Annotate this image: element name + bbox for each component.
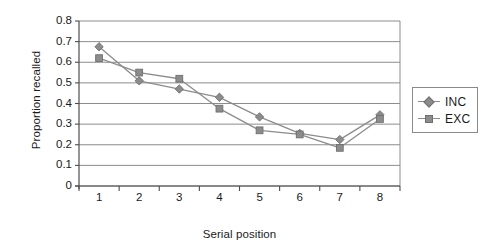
marker-square bbox=[336, 144, 343, 151]
data-point-inc-5 bbox=[255, 113, 263, 121]
data-point-exc-1 bbox=[96, 55, 103, 62]
legend-square-icon bbox=[425, 115, 433, 123]
x-tick-label: 2 bbox=[127, 192, 151, 204]
marker-diamond bbox=[336, 135, 344, 143]
x-tick-label: 7 bbox=[328, 192, 352, 204]
chart-figure: Proportion recalled 0.80.70.60.50.40.30.… bbox=[0, 0, 487, 252]
data-point-inc-4 bbox=[215, 93, 223, 101]
x-tick-label: 6 bbox=[288, 192, 312, 204]
marker-square bbox=[136, 69, 143, 76]
marker-square bbox=[176, 75, 183, 82]
data-point-inc-7 bbox=[336, 135, 344, 143]
marker-diamond bbox=[215, 93, 223, 101]
legend-marker-square-icon bbox=[418, 113, 440, 125]
x-tick-label: 3 bbox=[167, 192, 191, 204]
data-point-exc-5 bbox=[256, 127, 263, 134]
data-point-exc-4 bbox=[216, 105, 223, 112]
chart-legend: INCEXC bbox=[412, 87, 478, 133]
data-point-exc-3 bbox=[176, 75, 183, 82]
data-point-exc-2 bbox=[136, 69, 143, 76]
marker-square bbox=[296, 131, 303, 138]
legend-item-exc[interactable]: EXC bbox=[418, 110, 470, 127]
x-tick-label: 1 bbox=[87, 192, 111, 204]
legend-diamond-icon bbox=[423, 96, 434, 107]
marker-diamond bbox=[175, 85, 183, 93]
x-axis-tick-labels: 12345678 bbox=[79, 192, 400, 212]
marker-square bbox=[96, 55, 103, 62]
data-point-exc-7 bbox=[336, 144, 343, 151]
data-point-inc-3 bbox=[175, 85, 183, 93]
data-point-exc-6 bbox=[296, 131, 303, 138]
legend-label: INC bbox=[445, 95, 466, 109]
x-tick-label: 5 bbox=[248, 192, 272, 204]
x-axis-title: Serial position bbox=[79, 228, 400, 240]
marker-square bbox=[377, 116, 384, 123]
marker-square bbox=[216, 105, 223, 112]
x-tick-label: 8 bbox=[368, 192, 392, 204]
legend-item-inc[interactable]: INC bbox=[418, 93, 470, 110]
data-point-exc-8 bbox=[377, 116, 384, 123]
marker-square bbox=[256, 127, 263, 134]
legend-label: EXC bbox=[445, 112, 470, 126]
legend-marker-diamond-icon bbox=[418, 96, 440, 108]
series-line-inc bbox=[99, 47, 380, 140]
x-tick-label: 4 bbox=[207, 192, 231, 204]
marker-diamond bbox=[255, 113, 263, 121]
